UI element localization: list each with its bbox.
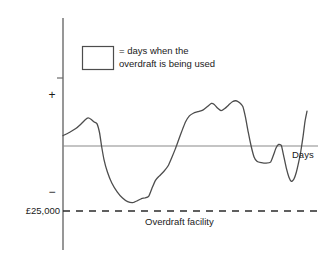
overdraft-chart: £25,000 + − Days Overdraft facility = da… <box>0 0 333 266</box>
x-axis-label: Days <box>292 149 314 161</box>
overdraft-facility-annotation: Overdraft facility <box>145 216 214 228</box>
balance-curve <box>63 101 307 203</box>
positive-axis-label: + <box>46 90 58 102</box>
legend-swatch-rectangle <box>83 47 114 70</box>
legend-text: = days when the overdraft is being used <box>119 45 215 70</box>
negative-axis-label: − <box>46 187 58 199</box>
legend-line-2: overdraft is being used <box>119 58 215 71</box>
overdraft-limit-label: £25,000 <box>8 205 60 217</box>
legend-line-1: = days when the <box>119 45 215 58</box>
